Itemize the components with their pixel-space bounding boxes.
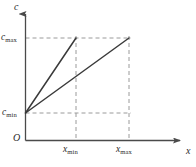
chart-canvas — [0, 0, 196, 167]
tick-label-cmax: cmax — [1, 33, 17, 43]
shallow-cost-line — [26, 38, 130, 113]
tick-label-cmax-subscript: max — [5, 36, 17, 43]
x-axis-label: x — [186, 146, 190, 156]
tick-label-cmin: cmin — [2, 108, 17, 118]
tick-label-xmin-subscript: min — [67, 148, 78, 155]
cost-vs-x-figure: c x O cmax cmin xmin xmax — [0, 0, 196, 167]
tick-label-xmax: xmax — [116, 145, 132, 155]
tick-label-cmin-subscript: min — [6, 111, 17, 118]
tick-label-xmax-subscript: max — [120, 148, 132, 155]
tick-label-xmin: xmin — [63, 145, 78, 155]
origin-label: O — [13, 133, 20, 143]
steep-cost-line — [26, 38, 77, 113]
y-axis-label: c — [14, 2, 18, 12]
